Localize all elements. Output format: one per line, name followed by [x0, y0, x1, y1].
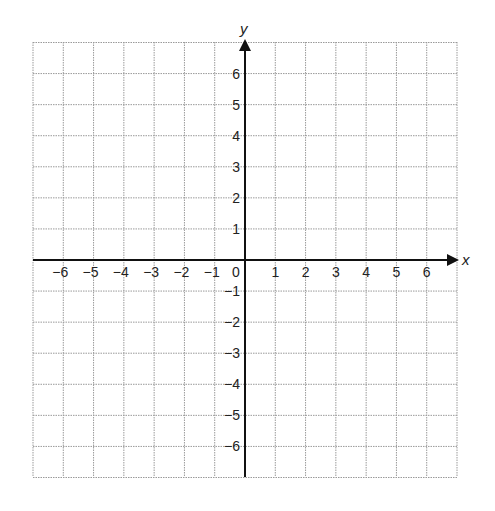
y-tick-label: −5 [224, 407, 240, 423]
y-tick-label: 4 [232, 128, 240, 144]
y-tick-label: 2 [232, 190, 240, 206]
x-tick-label: −5 [83, 264, 99, 280]
y-tick-label: −6 [224, 438, 240, 454]
y-tick-label: −2 [224, 314, 240, 330]
y-tick-label: 3 [232, 159, 240, 175]
x-tick-label: −4 [113, 264, 129, 280]
x-tick-label: 3 [332, 264, 340, 280]
y-axis-label: y [239, 20, 249, 37]
x-tick-label: 0 [232, 264, 240, 280]
x-tick-label: 2 [302, 264, 310, 280]
x-tick-label: 5 [393, 264, 401, 280]
x-tick-label: −1 [204, 264, 220, 280]
coordinate-plane: xy−6−5−4−3−2−10123456−6−5−4−3−2−1123456 [0, 0, 495, 511]
y-tick-label: −4 [224, 376, 240, 392]
x-tick-label: 6 [423, 264, 431, 280]
x-axis-label: x [461, 251, 470, 268]
y-tick-label: 1 [232, 221, 240, 237]
y-axis-arrow-icon [239, 39, 251, 51]
x-tick-label: 1 [271, 264, 279, 280]
y-tick-label: 6 [232, 66, 240, 82]
y-tick-label: 5 [232, 97, 240, 113]
x-tick-label: 4 [362, 264, 370, 280]
x-tick-label: −6 [52, 264, 68, 280]
y-tick-label: −1 [224, 283, 240, 299]
x-tick-label: −2 [173, 264, 189, 280]
x-tick-label: −3 [143, 264, 159, 280]
y-tick-label: −3 [224, 345, 240, 361]
